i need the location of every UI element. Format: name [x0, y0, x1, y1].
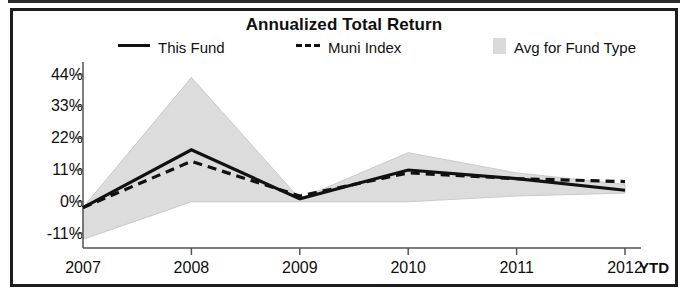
x-axis-tick-label: 2008: [174, 259, 210, 277]
band-polygon: [83, 78, 625, 240]
chart-frame: Annualized Total Return This Fund Muni I…: [10, 8, 678, 287]
x-axis-tick-label: 2010: [390, 259, 426, 277]
x-axis-tick-label: 2011: [499, 259, 533, 277]
avg-fund-type-band: [83, 78, 625, 240]
x-axis-tick-label: 2009: [282, 259, 318, 277]
x-axis-tick-label: 2007: [65, 259, 101, 277]
ytd-label: YTD: [639, 259, 669, 276]
plot-area: [13, 11, 681, 290]
x-axis-tick-label: 2012: [607, 259, 643, 277]
scan-artifact-strip: [8, 0, 680, 3]
